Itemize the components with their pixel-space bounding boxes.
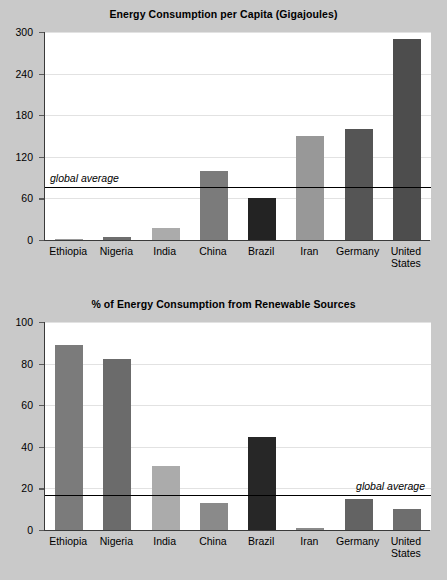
- y-axis-tick-label: 120: [0, 152, 33, 163]
- chart-panel-energy-per-capita: Energy Consumption per Capita (Gigajoule…: [0, 0, 447, 290]
- y-axis-tick-label: 80: [0, 358, 33, 369]
- bars-energy-per-capita: [45, 32, 431, 240]
- x-axis-label-ethiopia: Ethiopia: [44, 536, 92, 548]
- bar-china: [200, 503, 228, 530]
- y-axis-tick-mark: [39, 405, 44, 406]
- bar-germany: [345, 129, 373, 240]
- y-axis-tick-mark: [39, 74, 44, 75]
- x-axis-label-india: India: [141, 246, 189, 258]
- x-axis-label-china: China: [189, 246, 237, 258]
- y-axis-tick-mark: [39, 488, 44, 489]
- global-average-label-renewable-share: global average: [356, 480, 425, 492]
- y-axis-tick-label: 60: [0, 193, 33, 204]
- plot-area-renewable-share: [44, 322, 431, 530]
- x-axis-label-iran: Iran: [285, 536, 333, 548]
- y-axis-tick-label: 0: [0, 525, 33, 536]
- x-axis-label-india: India: [141, 536, 189, 548]
- x-axis-label-germany: Germany: [334, 246, 382, 258]
- x-axis-label-united-states: United States: [382, 246, 430, 270]
- x-axis-label-united-states: United States: [382, 536, 430, 560]
- y-axis-tick-label: 240: [0, 68, 33, 79]
- chart-panel-renewable-share: % of Energy Consumption from Renewable S…: [0, 290, 447, 580]
- x-axis-label-ethiopia: Ethiopia: [44, 246, 92, 258]
- y-axis-tick-mark: [39, 240, 44, 241]
- y-axis-tick-mark: [39, 530, 44, 531]
- y-axis-tick-label: 180: [0, 110, 33, 121]
- y-axis-tick-mark: [39, 157, 44, 158]
- y-axis-tick-label: 40: [0, 442, 33, 453]
- x-axis-label-brazil: Brazil: [237, 246, 285, 258]
- y-axis-tick-mark: [39, 364, 44, 365]
- y-axis-tick-label: 0: [0, 235, 33, 246]
- x-axis-label-iran: Iran: [285, 246, 333, 258]
- bar-brazil: [248, 437, 276, 530]
- chart-title-energy-per-capita: Energy Consumption per Capita (Gigajoule…: [0, 8, 447, 20]
- bar-ethiopia: [55, 345, 83, 530]
- y-axis-tick-mark: [39, 322, 44, 323]
- x-axis-label-china: China: [189, 536, 237, 548]
- y-axis-tick-mark: [39, 198, 44, 199]
- chart-page: Energy Consumption per Capita (Gigajoule…: [0, 0, 447, 580]
- x-axis-baseline-energy-per-capita: [44, 240, 430, 241]
- global-average-line-energy-per-capita: [45, 187, 431, 189]
- y-axis-tick-mark: [39, 32, 44, 33]
- bar-germany: [345, 499, 373, 530]
- bar-brazil: [248, 198, 276, 240]
- global-average-line-renewable-share: [45, 495, 431, 497]
- y-axis-tick-label: 20: [0, 483, 33, 494]
- bar-india: [152, 466, 180, 530]
- bar-china: [200, 171, 228, 240]
- x-axis-label-nigeria: Nigeria: [92, 246, 140, 258]
- x-axis-baseline-renewable-share: [44, 530, 430, 531]
- x-axis-label-brazil: Brazil: [237, 536, 285, 548]
- bars-renewable-share: [45, 322, 431, 530]
- y-axis-tick-mark: [39, 447, 44, 448]
- bar-india: [152, 228, 180, 240]
- bar-united-states: [393, 39, 421, 240]
- x-axis-label-nigeria: Nigeria: [92, 536, 140, 548]
- bar-united-states: [393, 509, 421, 530]
- plot-area-energy-per-capita: [44, 32, 431, 240]
- x-axis-label-germany: Germany: [334, 536, 382, 548]
- chart-title-renewable-share: % of Energy Consumption from Renewable S…: [0, 298, 447, 310]
- y-axis-tick-label: 100: [0, 317, 33, 328]
- global-average-label-energy-per-capita: global average: [50, 172, 119, 184]
- y-axis-tick-label: 300: [0, 27, 33, 38]
- y-axis-tick-mark: [39, 115, 44, 116]
- bar-nigeria: [103, 359, 131, 530]
- y-axis-tick-label: 60: [0, 400, 33, 411]
